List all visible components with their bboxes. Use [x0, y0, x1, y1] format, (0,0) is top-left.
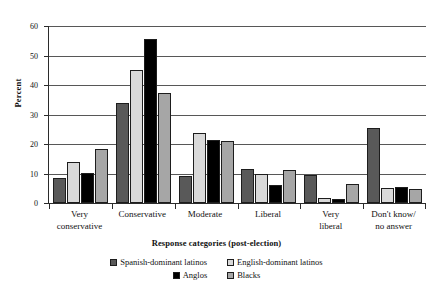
bar — [409, 189, 422, 203]
bar — [221, 141, 234, 203]
x-axis-tick — [425, 203, 426, 209]
x-axis-label-line: Very — [299, 209, 362, 221]
bar-groups — [49, 26, 426, 203]
legend-item: English-dominant latinos — [227, 258, 323, 267]
y-axis-tick-label: 0 — [34, 200, 38, 208]
bar-group — [49, 26, 112, 203]
bar — [179, 176, 192, 203]
bar — [95, 149, 108, 203]
bar — [367, 128, 380, 203]
legend: Spanish-dominant latinosEnglish-dominant… — [0, 258, 433, 280]
legend-label: English-dominant latinos — [237, 258, 323, 267]
legend-swatch-icon — [227, 272, 234, 279]
bar — [144, 39, 157, 203]
x-axis-label-line: no answer — [362, 221, 425, 233]
bar — [269, 185, 282, 203]
x-axis-label-line: Moderate — [174, 209, 237, 221]
legend-label: Anglos — [183, 271, 208, 280]
y-axis-tick-label: 10 — [30, 171, 38, 179]
legend-item: Spanish-dominant latinos — [110, 258, 207, 267]
bar — [130, 70, 143, 203]
legend-swatch-icon — [110, 259, 117, 266]
y-axis-tick-label: 30 — [30, 112, 38, 120]
y-axis-tick-label: 40 — [30, 82, 38, 90]
legend-swatch-icon — [173, 272, 180, 279]
bar — [381, 188, 394, 203]
bar — [283, 170, 296, 203]
bar-group — [237, 26, 300, 203]
bar-chart: Percent 0102030405060 VeryconservativeCo… — [0, 0, 433, 305]
bar — [193, 133, 206, 203]
bar — [304, 175, 317, 203]
bar-group — [363, 26, 426, 203]
bar — [53, 178, 66, 203]
legend-item: Blacks — [227, 271, 260, 280]
bar — [255, 174, 268, 203]
legend-label: Blacks — [237, 271, 260, 280]
x-axis-label-line: Don't know/ — [362, 209, 425, 221]
x-axis-category-labels: VeryconservativeConservativeModerateLibe… — [48, 209, 425, 237]
x-axis-label-line: Liberal — [236, 209, 299, 221]
legend-item: Anglos — [173, 271, 208, 280]
plot-area: 0102030405060 — [48, 26, 426, 204]
legend-swatch-icon — [227, 259, 234, 266]
x-axis-category-label: Veryconservative — [48, 209, 111, 237]
bar — [207, 140, 220, 203]
x-axis-category-label: Veryliberal — [299, 209, 362, 237]
x-axis-category-label: Don't know/no answer — [362, 209, 425, 237]
x-axis-label-line: Conservative — [111, 209, 174, 221]
y-axis-title: Percent — [13, 63, 23, 123]
bar — [346, 184, 359, 203]
x-axis-title: Response categories (post-election) — [0, 238, 433, 248]
bar-group — [175, 26, 238, 203]
x-axis-label-line: Very — [48, 209, 111, 221]
legend-row-1: Spanish-dominant latinosEnglish-dominant… — [0, 258, 433, 267]
x-axis-label-line: conservative — [48, 221, 111, 233]
bar-group — [300, 26, 363, 203]
bar — [116, 103, 129, 203]
x-axis-label-line: liberal — [299, 221, 362, 233]
x-axis-category-label: Conservative — [111, 209, 174, 237]
bar — [67, 162, 80, 203]
bar-group — [112, 26, 175, 203]
bar — [158, 93, 171, 203]
bar — [241, 169, 254, 203]
legend-row-2: AnglosBlacks — [0, 271, 433, 280]
y-axis-tick-label: 60 — [30, 23, 38, 31]
bar — [395, 187, 408, 203]
bar — [81, 173, 94, 203]
legend-label: Spanish-dominant latinos — [120, 258, 207, 267]
y-axis-tick-label: 20 — [30, 141, 38, 149]
x-axis-category-label: Moderate — [174, 209, 237, 237]
x-axis-category-label: Liberal — [236, 209, 299, 237]
y-axis-tick-label: 50 — [30, 53, 38, 61]
